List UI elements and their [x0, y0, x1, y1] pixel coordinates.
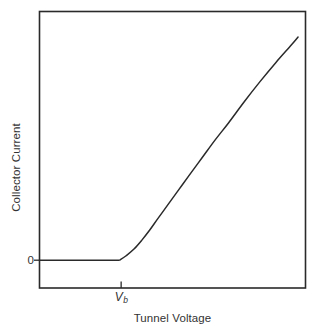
y-axis-label: Collector Current: [6, 0, 26, 335]
x-tick-label-vb-symbol: V: [115, 290, 123, 304]
chart-figure: [0, 0, 321, 335]
x-tick-label-vb-subscript: b: [123, 295, 128, 305]
y-tick-label-zero: 0: [22, 252, 34, 268]
x-axis-label: Tunnel Voltage: [39, 312, 306, 324]
y-axis-label-container: Collector Current: [6, 0, 26, 335]
chart-background: [0, 0, 321, 335]
x-tick-label-vb: Vb: [106, 289, 136, 306]
